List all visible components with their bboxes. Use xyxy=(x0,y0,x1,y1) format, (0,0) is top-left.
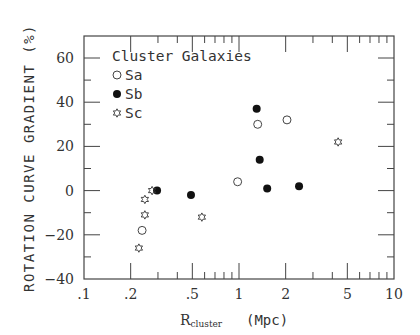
x-axis-label-main: Rcluster xyxy=(180,312,223,329)
sc-star-icon xyxy=(135,244,142,252)
data-points xyxy=(135,105,342,252)
legend-label-sb: Sb xyxy=(125,86,142,102)
axis-ticks: .1.2.512510−40−200204060 xyxy=(44,36,402,302)
y-tick-label: 40 xyxy=(56,94,74,110)
x-tick-label: .5 xyxy=(186,286,199,302)
y-tick-label: 20 xyxy=(56,138,74,154)
sb-filled-circle-icon xyxy=(263,184,271,192)
y-tick-label: 60 xyxy=(56,50,74,66)
sc-star-icon xyxy=(198,213,205,221)
sb-filled-circle-icon xyxy=(295,182,303,190)
sa-open-circle-icon xyxy=(254,120,262,128)
sb-filled-circle-icon xyxy=(256,156,264,164)
sc-star-icon xyxy=(141,211,148,219)
y-tick-label: −40 xyxy=(44,271,74,287)
scatter-chart: .1.2.512510−40−200204060 Cluster Galaxie… xyxy=(0,0,420,335)
sc-star-icon xyxy=(113,109,120,117)
sb-filled-circle-icon xyxy=(253,105,261,113)
y-tick-label: 0 xyxy=(65,183,74,199)
sb-filled-circle-icon xyxy=(113,90,121,98)
legend-title: Cluster Galaxies xyxy=(112,48,252,64)
y-axis-label: ROTATION CURVE GRADIENT (%) xyxy=(21,24,37,292)
legend-label-sa: Sa xyxy=(125,67,142,83)
x-tick-label: .1 xyxy=(77,286,90,302)
x-axis-label-unit: (Mpc) xyxy=(246,312,288,328)
x-tick-label: 1 xyxy=(235,286,244,302)
sa-open-circle-icon xyxy=(138,226,146,234)
x-tick-label: 10 xyxy=(385,286,403,302)
legend-label-sc: Sc xyxy=(125,105,142,121)
x-tick-label: 2 xyxy=(281,286,290,302)
sc-star-icon xyxy=(141,195,148,203)
chart-canvas: .1.2.512510−40−200204060 Cluster Galaxie… xyxy=(0,0,420,335)
sa-open-circle-icon xyxy=(113,71,121,79)
sa-open-circle-icon xyxy=(283,116,291,124)
x-tick-label: .2 xyxy=(124,286,137,302)
legend: Cluster Galaxies SaSbSc xyxy=(112,48,252,121)
y-tick-label: −20 xyxy=(44,227,74,243)
sa-open-circle-icon xyxy=(234,178,242,186)
sb-filled-circle-icon xyxy=(187,191,195,199)
sc-star-icon xyxy=(334,138,341,146)
x-axis-label: Rcluster (Mpc) xyxy=(180,312,288,329)
x-tick-label: 5 xyxy=(343,286,352,302)
